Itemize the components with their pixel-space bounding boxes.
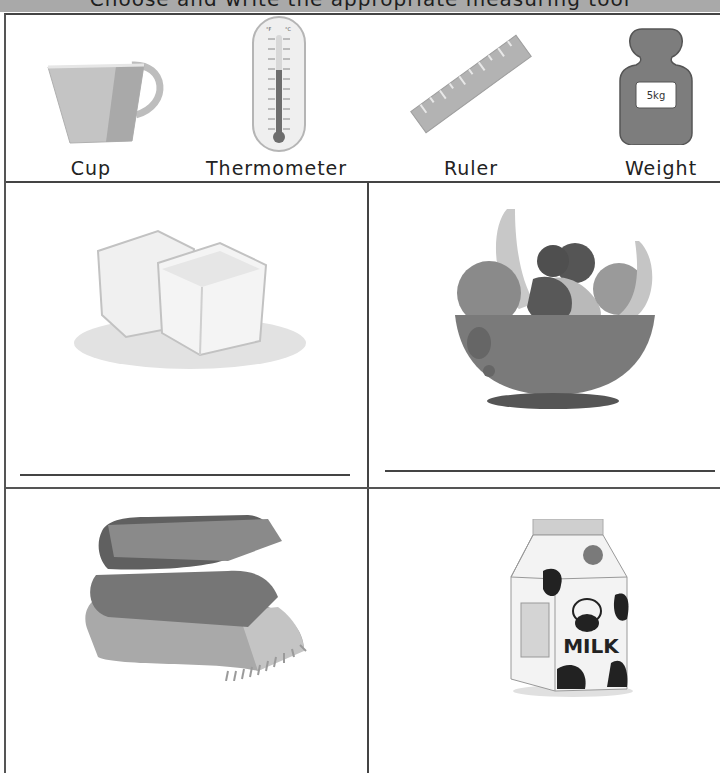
svg-text:°F: °F: [266, 26, 272, 32]
milk-carton-icon: MILK: [503, 519, 633, 699]
answer-line-fruit-bowl[interactable]: [385, 470, 715, 472]
tool-option-weight: 5kg Weight: [606, 15, 716, 181]
tool-label-ruler: Ruler: [406, 157, 536, 179]
instructions-banner: Choose and write the appropriate measuri…: [0, 0, 720, 12]
ruler-icon: [406, 29, 536, 139]
ice-cubes-icon: [70, 215, 310, 375]
cup-icon: [36, 45, 176, 145]
thermometer-icon: °F °C: [249, 15, 309, 155]
answer-line-ice-cubes[interactable]: [20, 474, 350, 476]
tool-label-thermometer: Thermometer: [206, 157, 346, 179]
tool-option-cup: Cup: [16, 15, 166, 181]
question-cell-ice-cubes: [6, 185, 366, 487]
question-cell-fruit-bowl: [369, 185, 720, 487]
instructions-title: Choose and write the appropriate measuri…: [0, 0, 720, 11]
weight-icon: 5kg: [616, 25, 696, 145]
weight-badge: 5kg: [647, 90, 666, 101]
blankets-icon: [78, 511, 318, 681]
question-cell-blankets: [6, 489, 366, 773]
tool-label-weight: Weight: [606, 157, 716, 179]
milk-label: MILK: [563, 634, 620, 658]
tool-option-thermometer: °F °C Thermometer: [206, 15, 346, 181]
tool-label-cup: Cup: [16, 157, 166, 179]
worksheet: Cup °: [4, 13, 720, 773]
fruit-bowl-icon: [449, 199, 659, 409]
tool-option-ruler: Ruler: [406, 15, 536, 181]
tool-options-row: Cup °: [6, 15, 720, 183]
svg-text:°C: °C: [285, 26, 292, 32]
question-cell-milk: MILK: [369, 489, 720, 773]
